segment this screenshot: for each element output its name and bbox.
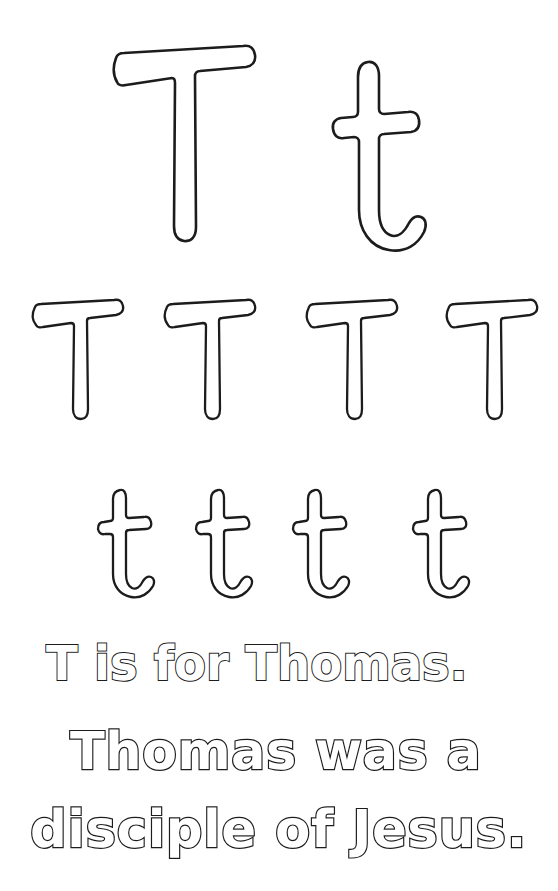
practice-lowercase-t-3 xyxy=(292,487,354,599)
practice-uppercase-T-4 xyxy=(444,298,540,422)
lowercase-t-path xyxy=(292,487,354,599)
practice-lowercase-t-2 xyxy=(195,487,257,599)
practice-uppercase-T-2 xyxy=(162,298,258,422)
sentence-line-3: disciple of Jesus. xyxy=(30,800,527,860)
sentence-line-1: T is for Thomas. xyxy=(46,636,467,692)
hero-uppercase-T-outline xyxy=(108,44,260,248)
uppercase-T-path xyxy=(108,44,260,248)
lowercase-t-path xyxy=(331,58,427,254)
hero-lowercase-t-outline xyxy=(331,58,427,254)
uppercase-T-path xyxy=(304,298,400,422)
practice-uppercase-T-1 xyxy=(30,298,126,422)
practice-lowercase-t-4 xyxy=(412,487,474,599)
sentence-line-2: Thomas was a xyxy=(70,722,481,782)
lowercase-t-path xyxy=(195,487,257,599)
worksheet-page: T is for Thomas. Thomas was a disciple o… xyxy=(0,0,558,891)
practice-lowercase-t-1 xyxy=(97,487,159,599)
practice-uppercase-T-3 xyxy=(304,298,400,422)
lowercase-t-path xyxy=(412,487,474,599)
lowercase-t-path xyxy=(97,487,159,599)
uppercase-T-path xyxy=(162,298,258,422)
uppercase-T-path xyxy=(30,298,126,422)
uppercase-T-path xyxy=(444,298,540,422)
